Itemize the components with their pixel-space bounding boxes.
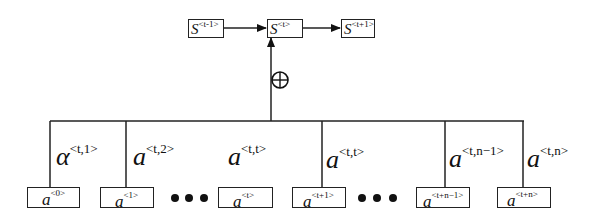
- dot: [389, 194, 397, 202]
- weight-sup: <t,t>: [339, 144, 364, 159]
- state-box-next: S<t+1>: [341, 19, 375, 38]
- input-sup: <0>: [51, 188, 66, 198]
- input-base: a: [423, 192, 432, 211]
- state-box-prev: S<t-1>: [188, 19, 224, 38]
- weight-label: a<t,n>: [527, 146, 568, 172]
- state-sup: <t+1>: [352, 19, 374, 29]
- input-sup: <t>: [242, 190, 255, 200]
- input-box: a<t+1>: [292, 187, 346, 208]
- input-box: a<t+n−1>: [416, 187, 470, 208]
- dot: [200, 194, 208, 202]
- state-box-current: S<t>: [267, 19, 303, 38]
- input-sup: <t+1>: [312, 190, 334, 200]
- weight-label: a<t,2>: [133, 144, 174, 170]
- weight-base: a: [228, 142, 241, 171]
- input-box: a<t>: [218, 187, 273, 208]
- weight-base: a: [527, 144, 540, 173]
- input-box: a<1>: [100, 187, 154, 208]
- dot: [185, 194, 193, 202]
- input-base: a: [303, 192, 312, 211]
- weight-label: a<t,t>: [228, 144, 266, 170]
- weight-sup: <t,t>: [241, 141, 266, 156]
- weight-sup: <t,n>: [540, 143, 568, 158]
- weight-sup: <t,1>: [70, 141, 98, 156]
- weight-base: a: [326, 145, 339, 174]
- state-base: S: [191, 21, 199, 37]
- weight-label: a<t,n−1>: [449, 146, 504, 172]
- input-sup: <1>: [124, 190, 139, 200]
- input-sup: <t+n>: [516, 189, 538, 199]
- state-base: S: [344, 21, 352, 37]
- state-sup: <t-1>: [199, 19, 219, 29]
- dot: [171, 194, 179, 202]
- weight-base: a: [133, 142, 146, 171]
- weight-sup: <t,n−1>: [462, 143, 504, 158]
- weight-base: a: [449, 144, 462, 173]
- dot: [358, 194, 366, 202]
- input-sup: <t+n−1>: [432, 190, 464, 200]
- weight-label: α<t,1>: [56, 144, 98, 170]
- input-base: a: [42, 190, 51, 209]
- input-base: a: [507, 191, 516, 210]
- input-box: a<t+n>: [497, 187, 551, 208]
- weight-label: a<t,t>: [326, 147, 364, 173]
- input-base: a: [115, 192, 124, 211]
- dot: [373, 194, 381, 202]
- state-base: S: [270, 21, 278, 37]
- input-base: a: [233, 192, 242, 211]
- state-sup: <t>: [278, 19, 291, 29]
- input-box: a<0>: [27, 187, 80, 208]
- weight-base: α: [56, 142, 70, 171]
- weight-sup: <t,2>: [146, 141, 174, 156]
